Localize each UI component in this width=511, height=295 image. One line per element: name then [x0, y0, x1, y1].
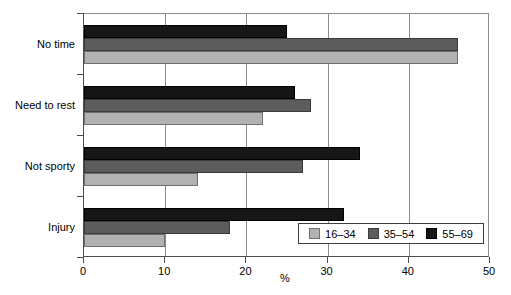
x-axis-label-30: 30 — [307, 265, 347, 278]
bar-group — [84, 86, 488, 125]
y-axis-label-2: Not sporty — [25, 160, 75, 172]
y-axis-label-3: Injury — [48, 221, 75, 233]
x-axis-title: % — [265, 272, 305, 284]
legend-item: 55–69 — [426, 228, 473, 240]
legend-item: 35–54 — [368, 228, 415, 240]
x-tick-0 — [83, 257, 84, 263]
y-tick — [77, 196, 84, 197]
y-axis-label-0: No time — [37, 38, 75, 50]
legend-swatch-55-69 — [426, 228, 437, 239]
bar-chart: No timeNeed to restNot sportyInjury 0102… — [0, 0, 511, 295]
x-tick-10 — [164, 257, 165, 263]
x-tick-20 — [245, 257, 246, 263]
bar-group — [84, 25, 488, 64]
bar — [84, 208, 344, 221]
legend-label-35-54: 35–54 — [384, 228, 415, 240]
legend-item: 16–34 — [309, 228, 356, 240]
y-tick — [77, 135, 84, 136]
x-axis-label-50: 50 — [469, 265, 509, 278]
y-axis-label-1: Need to rest — [15, 99, 75, 111]
bar — [84, 25, 287, 38]
bar — [84, 221, 230, 234]
bar — [84, 86, 295, 99]
y-tick — [77, 13, 84, 14]
x-axis-label-10: 10 — [144, 265, 184, 278]
x-tick-40 — [408, 257, 409, 263]
x-axis-label-40: 40 — [388, 265, 428, 278]
bar — [84, 51, 458, 64]
bar — [84, 173, 198, 186]
legend-label-16-34: 16–34 — [325, 228, 356, 240]
bar — [84, 160, 303, 173]
x-axis-label-20: 20 — [225, 265, 265, 278]
y-tick — [77, 74, 84, 75]
plot-area — [83, 13, 489, 257]
bar — [84, 99, 311, 112]
bar — [84, 38, 458, 51]
x-tick-30 — [327, 257, 328, 263]
chart-legend: 16–34 35–54 55–69 — [298, 223, 484, 244]
x-axis-label-0: 0 — [63, 265, 103, 278]
bar — [84, 112, 263, 125]
legend-swatch-16-34 — [309, 228, 320, 239]
legend-label-55-69: 55–69 — [442, 228, 473, 240]
bar — [84, 147, 360, 160]
x-tick-50 — [489, 257, 490, 263]
bar-group — [84, 147, 488, 186]
legend-swatch-35-54 — [368, 228, 379, 239]
bar — [84, 234, 165, 247]
